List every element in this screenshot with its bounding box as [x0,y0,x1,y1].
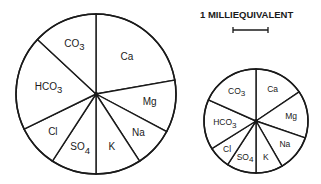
legend-scale-label: 1 MILLIEQUIVALENT [200,9,293,20]
segment-label-ca: Ca [267,84,278,94]
segment-label-k: K [263,152,269,162]
segment-label-mg: Mg [285,111,297,121]
legend: 1 MILLIEQUIVALENT [200,9,293,33]
pie-charts: CaMgNaKSO4ClHCO3CO3CaMgNaKSO4ClHCO3CO3 [16,14,308,174]
segment-label-cl: Cl [223,144,231,154]
segment-label-ca: Ca [120,51,133,62]
small-pie: CaMgNaKSO4ClHCO3CO3 [204,69,308,173]
segment-label-na: Na [279,139,290,149]
ion-composition-diagram: CaMgNaKSO4ClHCO3CO3CaMgNaKSO4ClHCO3CO3 1… [0,0,321,184]
pie-center-dot [94,92,98,96]
segment-label-na: Na [132,127,145,138]
segment-label-cl: Cl [48,126,57,137]
pie-center-dot [254,119,258,123]
segment-label-k: K [109,141,116,152]
large-pie: CaMgNaKSO4ClHCO3CO3 [16,14,176,174]
segment-label-mg: Mg [143,96,157,107]
